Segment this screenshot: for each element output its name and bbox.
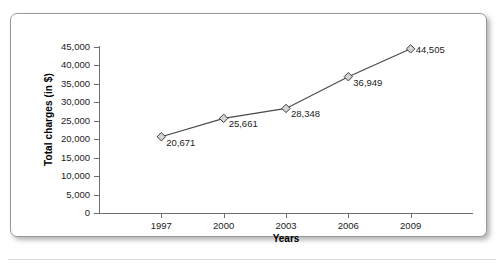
- data-point-label: 20,671: [166, 137, 195, 148]
- chart-card: Total charges (in $) 45,00040,00035,0003…: [10, 13, 487, 237]
- data-point-label: 44,505: [416, 44, 445, 55]
- data-point-marker: [157, 133, 165, 141]
- data-point-marker: [344, 72, 352, 80]
- data-point-marker: [406, 45, 414, 53]
- chart-plot-area: Total charges (in $) 45,00040,00035,0003…: [11, 14, 486, 236]
- data-point-label: 36,949: [353, 77, 382, 88]
- data-point-marker: [282, 104, 290, 112]
- x-axis-title: Years: [99, 233, 473, 244]
- series-line: [161, 49, 410, 137]
- data-point-label: 25,661: [229, 118, 258, 129]
- data-point-label: 28,348: [291, 108, 320, 119]
- data-point-marker: [219, 114, 227, 122]
